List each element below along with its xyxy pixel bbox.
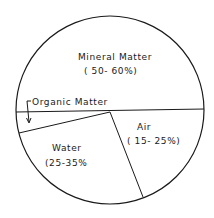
air-range: ( 15- 25%): [127, 136, 180, 146]
air-label: Air: [137, 122, 151, 132]
organic-label: Organic Matter: [32, 97, 108, 107]
pie-chart: Mineral Matter ( 50- 60%) Organic Matter…: [0, 0, 214, 218]
mineral-label: Mineral Matter: [78, 52, 152, 62]
water-range: (25-35%: [45, 158, 87, 168]
water-label: Water: [52, 143, 82, 153]
mineral-range: ( 50- 60%): [84, 66, 137, 76]
